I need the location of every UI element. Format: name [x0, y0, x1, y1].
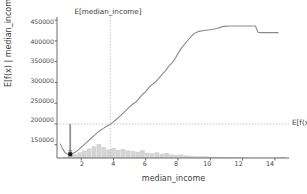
histogram-bar: [87, 148, 92, 158]
histogram-bar: [150, 153, 155, 158]
histogram-bar: [116, 150, 121, 158]
plot-canvas: [0, 0, 307, 194]
histogram-bar: [164, 153, 169, 158]
histogram-bar: [111, 148, 116, 158]
histogram-bar: [140, 150, 145, 158]
histogram-bar: [82, 150, 87, 158]
histogram-bar: [179, 154, 184, 158]
histogram-bar: [97, 144, 102, 158]
histogram-bar: [126, 150, 131, 158]
value-arrow: [68, 124, 72, 154]
histogram-bar: [159, 154, 164, 158]
histogram-bars: [63, 144, 286, 158]
histogram-bar: [77, 152, 82, 158]
reference-lines: [57, 14, 289, 158]
pdp-curve: [60, 26, 278, 155]
minimum-marker: [68, 152, 72, 156]
histogram-bar: [135, 152, 140, 158]
histogram-bar: [169, 154, 174, 158]
histogram-bar: [130, 151, 135, 158]
histogram-bar: [174, 155, 179, 158]
histogram-bar: [121, 149, 126, 158]
histogram-bar: [101, 147, 106, 158]
histogram-bar: [72, 154, 77, 158]
histogram-bar: [106, 149, 111, 158]
partial-dependence-chart: 450000 400000 350000 300000 250000 20000…: [0, 0, 307, 194]
histogram-bar: [155, 152, 160, 158]
histogram-bar: [92, 146, 97, 158]
histogram-bar: [145, 153, 150, 158]
